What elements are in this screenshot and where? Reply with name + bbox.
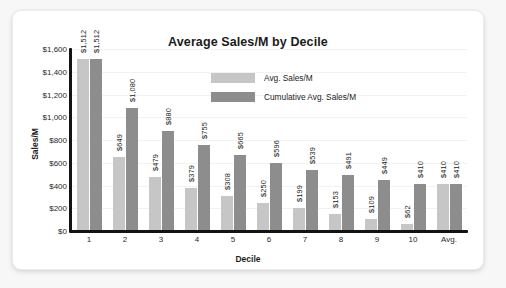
y-axis-tick-label: $1,200 — [19, 90, 67, 99]
bar-value-label: $153 — [330, 191, 339, 208]
y-axis-tick-label: $400 — [19, 181, 67, 190]
bar-group: $410$410 — [431, 49, 467, 231]
bar-wrapper: $1,512 — [77, 49, 89, 231]
bar-value-label: $449 — [379, 157, 388, 174]
bar[interactable] — [378, 180, 390, 231]
x-axis-tick-label: 6 — [251, 235, 287, 244]
bar[interactable] — [234, 155, 246, 231]
x-axis-tick-label: Avg. — [431, 235, 467, 244]
bar-value-label: $308 — [222, 173, 231, 190]
x-axis-tick-label: 9 — [359, 235, 395, 244]
bar[interactable] — [113, 157, 125, 231]
bar[interactable] — [185, 188, 197, 231]
bar-value-label: $109 — [366, 196, 375, 213]
bar-group: $62$410 — [395, 49, 431, 231]
x-axis-tick-label: 4 — [179, 235, 215, 244]
bar-value-label: $1,512 — [78, 30, 87, 53]
bar[interactable] — [329, 214, 341, 231]
bar-wrapper: $410 — [450, 49, 462, 231]
x-axis-tick-label: 2 — [107, 235, 143, 244]
x-axis-line — [69, 230, 468, 233]
y-axis-tick-label: $0 — [19, 227, 67, 236]
bar-value-label: $379 — [186, 165, 195, 182]
legend-item[interactable]: Cumulative Avg. Sales/M — [211, 92, 356, 102]
y-axis-tick-label: $1,600 — [19, 45, 67, 54]
bar-value-label: $596 — [271, 140, 280, 157]
x-axis-tick-label: 8 — [323, 235, 359, 244]
y-axis-tick-labels: $0$200$400$600$800$1,000$1,200$1,400$1,6… — [15, 49, 67, 231]
bar[interactable] — [414, 184, 426, 231]
legend-swatch-cumulative-icon — [211, 92, 255, 102]
bar[interactable] — [342, 175, 354, 231]
bar[interactable] — [198, 145, 210, 231]
y-axis-tick-label: $1,400 — [19, 67, 67, 76]
bar[interactable] — [437, 184, 449, 231]
bar-wrapper: $479 — [149, 49, 161, 231]
bar-value-label: $479 — [150, 154, 159, 171]
bar-wrapper: $1,512 — [90, 49, 102, 231]
bar-value-label: $1,512 — [91, 30, 100, 53]
screenshot-root: Average Sales/M by Decile Sales/M Decile… — [0, 0, 506, 288]
y-axis-line — [69, 48, 72, 232]
legend-label: Avg. Sales/M — [264, 73, 313, 83]
bar-value-label: $539 — [307, 147, 316, 164]
x-axis-tick-label: 3 — [143, 235, 179, 244]
bar[interactable] — [293, 208, 305, 231]
bar-group: $479$880 — [143, 49, 179, 231]
bar-value-label: $410 — [415, 162, 424, 179]
bar-wrapper: $62 — [401, 49, 413, 231]
bar-wrapper: $755 — [198, 49, 210, 231]
bar-group: $1,512$1,512 — [71, 49, 107, 231]
bar-group: $379$755 — [179, 49, 215, 231]
bar-wrapper: $379 — [185, 49, 197, 231]
x-axis-title: Decile — [13, 254, 483, 264]
bar-value-label: $491 — [343, 152, 352, 169]
chart-card: Average Sales/M by Decile Sales/M Decile… — [12, 10, 484, 270]
chart-legend: Avg. Sales/M Cumulative Avg. Sales/M — [211, 73, 356, 111]
legend-swatch-avg-sales-icon — [211, 73, 255, 83]
bar-group: $649$1,080 — [107, 49, 143, 231]
y-axis-tick-label: $200 — [19, 204, 67, 213]
bar-wrapper: $649 — [113, 49, 125, 231]
bar-value-label: $880 — [163, 108, 172, 125]
legend-item[interactable]: Avg. Sales/M — [211, 73, 356, 83]
bar-value-label: $199 — [294, 186, 303, 203]
y-axis-tick-label: $1,000 — [19, 113, 67, 122]
bar-wrapper: $1,080 — [126, 49, 138, 231]
bar[interactable] — [126, 108, 138, 231]
bar-value-label: $410 — [438, 162, 447, 179]
legend-label: Cumulative Avg. Sales/M — [264, 92, 356, 102]
bar-wrapper: $880 — [162, 49, 174, 231]
bar[interactable] — [257, 203, 269, 231]
bar-value-label: $250 — [258, 180, 267, 197]
bar[interactable] — [90, 59, 102, 231]
bar-value-label: $665 — [235, 133, 244, 150]
bar-wrapper: $410 — [437, 49, 449, 231]
x-axis-tick-label: 5 — [215, 235, 251, 244]
bar[interactable] — [149, 177, 161, 231]
bar-value-label: $62 — [402, 205, 411, 218]
y-axis-tick-label: $800 — [19, 136, 67, 145]
bar[interactable] — [450, 184, 462, 231]
bar-value-label: $649 — [114, 134, 123, 151]
bar[interactable] — [221, 196, 233, 231]
bar-value-label: $410 — [451, 162, 460, 179]
bar-value-label: $755 — [199, 122, 208, 139]
bar[interactable] — [162, 131, 174, 231]
bar-value-label: $1,080 — [127, 79, 136, 102]
bar-wrapper: $109 — [365, 49, 377, 231]
x-axis-tick-label: 1 — [71, 235, 107, 244]
x-axis-tick-label: 7 — [287, 235, 323, 244]
bar[interactable] — [270, 163, 282, 231]
bar-wrapper: $410 — [414, 49, 426, 231]
bar[interactable] — [77, 59, 89, 231]
bar-wrapper: $449 — [378, 49, 390, 231]
y-axis-tick-label: $600 — [19, 158, 67, 167]
bar-group: $109$449 — [359, 49, 395, 231]
bar[interactable] — [306, 170, 318, 231]
x-axis-tick-label: 10 — [395, 235, 431, 244]
